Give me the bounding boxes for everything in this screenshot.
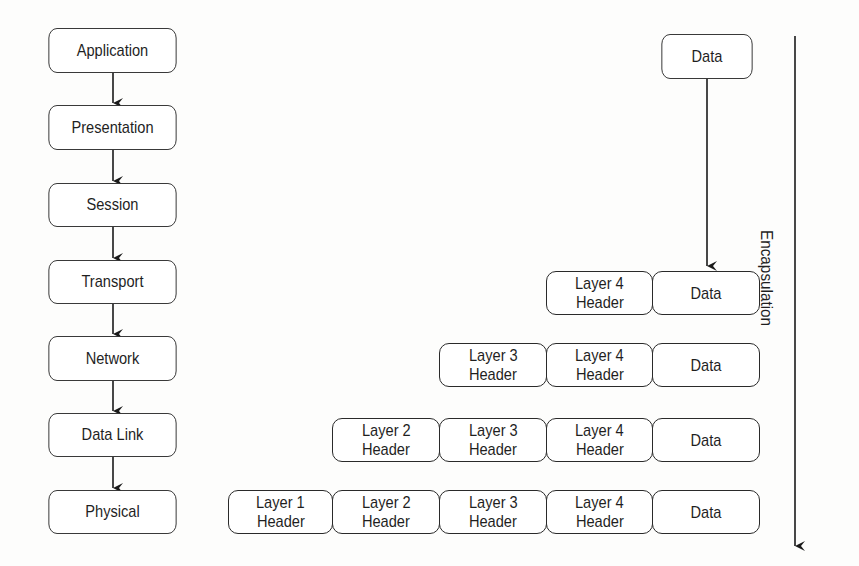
top-data-box: Data bbox=[661, 34, 752, 79]
osi-layer-transport: Transport bbox=[48, 260, 176, 304]
segment-layer4-header: Layer 4Header bbox=[546, 490, 653, 534]
segment-line1: Data bbox=[691, 284, 722, 303]
segment-layer4-header: Layer 4Header bbox=[546, 343, 653, 387]
segment-line1: Layer 4 bbox=[575, 421, 624, 440]
segment-line2: Header bbox=[576, 293, 624, 312]
segment-layer3-header: Layer 3Header bbox=[439, 343, 547, 387]
segment-data: Data bbox=[652, 271, 760, 315]
osi-layer-network: Network bbox=[48, 336, 176, 381]
segment-layer4-header: Layer 4Header bbox=[546, 271, 653, 315]
segment-data: Data bbox=[652, 418, 760, 462]
segment-layer2-header: Layer 2Header bbox=[332, 490, 440, 534]
segment-line2: Header bbox=[576, 365, 624, 384]
segment-line2: Header bbox=[257, 512, 305, 531]
osi-layer-session: Session bbox=[48, 183, 176, 227]
layer-label: Session bbox=[86, 196, 138, 214]
segment-line2: Header bbox=[576, 440, 624, 459]
segment-data: Data bbox=[652, 343, 760, 387]
layer-label: Presentation bbox=[71, 119, 153, 137]
segment-line1: Layer 2 bbox=[362, 421, 411, 440]
segment-layer2-header: Layer 2Header bbox=[332, 418, 440, 462]
layer-label: Application bbox=[77, 42, 149, 60]
segment-line1: Data bbox=[691, 431, 722, 450]
segment-layer3-header: Layer 3Header bbox=[439, 418, 547, 462]
segment-line2: Header bbox=[362, 512, 410, 531]
segment-line1: Layer 2 bbox=[362, 493, 411, 512]
osi-layer-application: Application bbox=[48, 28, 176, 73]
segment-layer3-header: Layer 3Header bbox=[439, 490, 547, 534]
segment-data: Data bbox=[652, 490, 760, 534]
osi-layer-physical: Physical bbox=[48, 490, 176, 534]
layer-label: Data Link bbox=[82, 426, 144, 444]
segment-line2: Header bbox=[576, 512, 624, 531]
segment-line1: Layer 4 bbox=[575, 493, 624, 512]
segment-line1: Layer 3 bbox=[469, 493, 518, 512]
segment-line2: Header bbox=[469, 365, 517, 384]
layer-label: Physical bbox=[85, 503, 139, 521]
segment-line1: Layer 3 bbox=[469, 346, 518, 365]
data-label: Data bbox=[692, 48, 723, 66]
segment-line1: Layer 1 bbox=[256, 493, 305, 512]
segment-layer4-header: Layer 4Header bbox=[546, 418, 653, 462]
segment-line1: Layer 4 bbox=[575, 346, 624, 365]
segment-line2: Header bbox=[362, 440, 410, 459]
layer-label: Transport bbox=[81, 273, 143, 291]
layer-label: Network bbox=[86, 350, 140, 368]
segment-line2: Header bbox=[469, 512, 517, 531]
segment-line1: Layer 3 bbox=[469, 421, 518, 440]
segment-layer1-header: Layer 1Header bbox=[228, 490, 333, 534]
osi-layer-data-link: Data Link bbox=[48, 413, 176, 457]
segment-line1: Data bbox=[691, 356, 722, 375]
osi-layer-presentation: Presentation bbox=[48, 105, 176, 150]
segment-line2: Header bbox=[469, 440, 517, 459]
segment-line1: Data bbox=[691, 503, 722, 522]
segment-line1: Layer 4 bbox=[575, 274, 624, 293]
